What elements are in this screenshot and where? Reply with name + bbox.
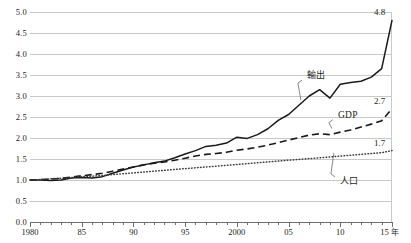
x-axis-tick-label: 95	[181, 228, 190, 237]
series-end-value: 1.7	[374, 139, 385, 148]
x-axis-tick-minor	[247, 222, 248, 225]
x-axis-tick-minor	[227, 222, 228, 225]
line-chart: 0.00.51.01.52.02.53.03.54.04.55.0 輸出4.8G…	[0, 0, 411, 243]
y-axis-tick-label: 4.0	[1, 50, 27, 59]
y-axis: 0.00.51.01.52.02.53.03.54.04.55.0	[0, 0, 27, 243]
x-axis-tick-minor	[144, 222, 145, 225]
x-axis-tick-minor	[102, 222, 103, 225]
y-axis-tick-label: 2.5	[1, 113, 27, 122]
x-axis-tick-label: 1980	[22, 228, 39, 237]
x-axis-tick-minor	[71, 222, 72, 225]
x-axis-tick-minor	[320, 222, 321, 225]
plot-area: 輸出4.8GDP2.7人口1.7	[30, 12, 392, 222]
y-axis-tick-label: 0.0	[1, 218, 27, 227]
x-axis-tick-label: 2000	[228, 228, 245, 237]
y-axis-tick-label: 3.5	[1, 71, 27, 80]
x-axis-tick-minor	[61, 222, 62, 225]
x-axis-tick-minor	[40, 222, 41, 225]
x-axis-tick-label: 15 年	[380, 228, 399, 237]
x-axis-tick-minor	[351, 222, 352, 225]
x-axis-tick-minor	[123, 222, 124, 225]
x-axis-tick-minor	[195, 222, 196, 225]
x-axis-tick-minor	[268, 222, 269, 225]
series-label-leader	[298, 80, 302, 100]
x-axis-tick-minor	[51, 222, 52, 225]
y-axis-tick-label: 1.5	[1, 155, 27, 164]
y-axis-tick-label: 0.5	[1, 197, 27, 206]
x-axis-tick-minor	[299, 222, 300, 225]
x-axis-tick-minor	[216, 222, 217, 225]
y-axis-tick-label: 1.0	[1, 176, 27, 185]
series-end-value: 4.8	[374, 8, 385, 17]
series-label: 人口	[340, 177, 358, 186]
x-axis-tick-minor	[258, 222, 259, 225]
x-axis-tick-minor	[278, 222, 279, 225]
x-axis: 19808590952000051015 年	[30, 222, 392, 243]
x-axis-tick-minor	[330, 222, 331, 225]
y-axis-tick-label: 3.0	[1, 92, 27, 101]
x-axis-tick-minor	[309, 222, 310, 225]
x-axis-tick-minor	[92, 222, 93, 225]
x-axis-tick-label: 10	[336, 228, 345, 237]
series-end-value: 2.7	[374, 97, 385, 106]
series-label: GDP	[338, 111, 358, 120]
x-axis-tick-minor	[382, 222, 383, 225]
y-axis-tick-label: 4.5	[1, 29, 27, 38]
x-axis-tick-major	[392, 222, 393, 227]
x-axis-tick-minor	[164, 222, 165, 225]
series-label: 輸出	[307, 71, 325, 80]
x-axis-tick-minor	[371, 222, 372, 225]
series-line-dotted	[30, 151, 392, 180]
x-axis-tick-minor	[175, 222, 176, 225]
x-axis-tick-minor	[113, 222, 114, 225]
y-axis-tick-label: 5.0	[1, 8, 27, 17]
x-axis-unit-label: 年	[389, 228, 400, 237]
x-axis-tick-minor	[206, 222, 207, 225]
x-axis-tick-minor	[154, 222, 155, 225]
x-axis-tick-label: 05	[284, 228, 293, 237]
series-label-leader	[329, 120, 333, 129]
y-axis-tick-label: 2.0	[1, 134, 27, 143]
x-axis-tick-minor	[361, 222, 362, 225]
x-axis-tick-label: 90	[129, 228, 138, 237]
x-axis-tick-label: 85	[77, 228, 86, 237]
